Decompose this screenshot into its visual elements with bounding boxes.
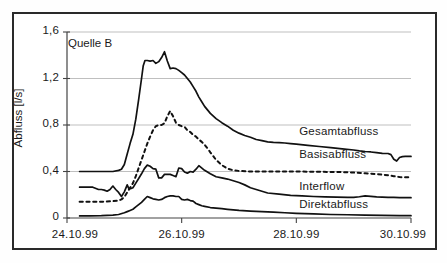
x-tick-label: 26.10.99: [148, 228, 216, 240]
y-tick-label: 0,8: [25, 117, 59, 129]
series-label-interflow: Interflow: [299, 180, 344, 192]
x-tick-label: 28.10.99: [262, 228, 330, 240]
series-line-interflow: [80, 165, 411, 198]
chart-annotation: Quelle B: [68, 37, 112, 49]
x-tick-label: 24.10.99: [41, 228, 109, 240]
series-label-gesamtabfluss: Gesamtabfluss: [299, 125, 378, 137]
y-tick-label: 1,6: [25, 24, 59, 36]
chart-figure: Abfluss [l/s] 00,40,81,21,6 24.10.9926.1…: [0, 0, 447, 263]
y-tick-label: 0: [25, 210, 59, 222]
y-axis-title: Abfluss [l/s]: [12, 70, 24, 166]
y-tick-label: 1,2: [25, 71, 59, 83]
series-label-basisabfluss: Basisabfluss: [299, 148, 366, 160]
y-tick-label: 0,4: [25, 164, 59, 176]
series-label-direktabfluss: Direktabfluss: [299, 198, 368, 210]
x-tick-label: 30.10.99: [369, 228, 437, 240]
